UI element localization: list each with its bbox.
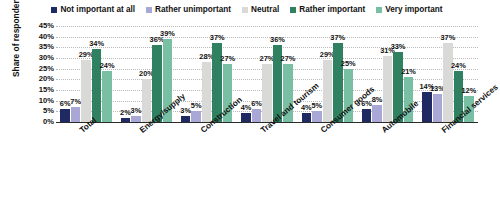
bar-value-label: 4%	[301, 104, 312, 112]
bar-slot: 6%	[252, 26, 262, 122]
y-axis-tick-label: 15%	[39, 86, 54, 94]
legend-item[interactable]: Rather important	[290, 5, 365, 15]
bar-value-label: 21%	[401, 68, 416, 76]
bar-value-label: 5%	[311, 102, 322, 110]
bar-slot: 4%	[241, 26, 251, 122]
bar[interactable]	[362, 109, 372, 122]
bar[interactable]	[422, 92, 432, 122]
bar-value-label: 27%	[220, 55, 235, 63]
y-axis-tick-label: 40%	[39, 33, 54, 41]
y-axis-tick-label: 5%	[43, 107, 54, 115]
bar[interactable]	[102, 71, 112, 122]
bar[interactable]	[433, 94, 443, 122]
y-axis-tick-label: 0%	[43, 118, 54, 126]
bar-value-label: 6%	[60, 100, 71, 108]
legend-swatch-icon	[376, 7, 382, 13]
bar-slot: 37%	[212, 26, 222, 122]
bar-slot: 8%	[372, 26, 382, 122]
bar[interactable]	[262, 64, 272, 122]
bar-slot: 4%	[302, 26, 312, 122]
y-axis-tick-label: 10%	[39, 97, 54, 105]
bar-slot: 7%	[71, 26, 81, 122]
bar-slot: 2%	[121, 26, 131, 122]
bar-slot: 14%	[422, 26, 432, 122]
bar-slot: 37%	[333, 26, 343, 122]
bar-value-label: 27%	[281, 55, 296, 63]
bar-slot: 24%	[102, 26, 112, 122]
bar-value-label: 3%	[180, 107, 191, 115]
legend-swatch-icon	[146, 7, 152, 13]
y-axis-tick-label: 30%	[39, 54, 54, 62]
bar[interactable]	[443, 43, 453, 122]
bar-value-label: 8%	[372, 96, 383, 104]
bar-slot: 36%	[273, 26, 283, 122]
bar-value-label: 2%	[120, 109, 131, 117]
legend-item[interactable]: Neutral	[242, 5, 279, 15]
y-axis-tick-label: 35%	[39, 43, 54, 51]
legend-item-label: Rather unimportant	[155, 5, 231, 15]
bar-value-label: 12%	[461, 87, 476, 95]
bar-value-label: 3%	[131, 107, 142, 115]
bar-value-label: 39%	[160, 30, 175, 38]
legend-item[interactable]: Not important at all	[51, 5, 135, 15]
bar-group: 6%7%29%34%24%	[56, 26, 116, 122]
bar[interactable]	[142, 79, 152, 122]
bar-slot: 6%	[60, 26, 70, 122]
bar[interactable]	[191, 111, 201, 122]
chart-legend: Not important at allRather unimportantNe…	[0, 5, 494, 15]
bar-slot: 5%	[191, 26, 201, 122]
y-axis-tick-labels: 45%40%35%30%25%20%15%10%5%0%	[22, 26, 54, 122]
bar[interactable]	[81, 60, 91, 122]
x-axis-category-labels: TotalEnergy/supplyConstructionTravel and…	[56, 122, 478, 196]
bar-slot: 31%	[383, 26, 393, 122]
bar-slot: 5%	[312, 26, 322, 122]
bar[interactable]	[60, 109, 70, 122]
bar-value-label: 4%	[241, 104, 252, 112]
legend-item-label: Not important at all	[60, 5, 135, 15]
legend-item[interactable]: Very important	[376, 5, 442, 15]
legend-item-label: Neutral	[251, 5, 279, 15]
bar-slot: 24%	[454, 26, 464, 122]
bar[interactable]	[312, 111, 322, 122]
bar[interactable]	[383, 56, 393, 122]
bar-slot: 37%	[443, 26, 453, 122]
bar-slot: 34%	[92, 26, 102, 122]
bar-value-label: 25%	[341, 60, 356, 68]
y-axis-tick-label: 20%	[39, 75, 54, 83]
legend-item-label: Very important	[385, 5, 442, 15]
legend-swatch-icon	[242, 7, 248, 13]
bar-value-label: 6%	[251, 100, 262, 108]
legend-item[interactable]: Rather unimportant	[146, 5, 231, 15]
legend-item-label: Rather important	[299, 5, 365, 15]
bar[interactable]	[241, 113, 251, 122]
legend-swatch-icon	[290, 7, 296, 13]
bar[interactable]	[323, 60, 333, 122]
bar[interactable]	[372, 105, 382, 122]
y-axis-tick-label: 25%	[39, 65, 54, 73]
bar-value-label: 5%	[191, 102, 202, 110]
bar-slot: 3%	[181, 26, 191, 122]
bar-slot: 6%	[362, 26, 372, 122]
bar[interactable]	[252, 109, 262, 122]
bar[interactable]	[302, 113, 312, 122]
y-axis-tick-label: 45%	[39, 22, 54, 30]
bar-value-label: 7%	[70, 98, 81, 106]
y-axis-title: Share of respondents	[10, 0, 22, 82]
legend-swatch-icon	[51, 7, 57, 13]
bar[interactable]	[71, 107, 81, 122]
bar-value-label: 24%	[100, 62, 115, 70]
bar[interactable]	[202, 62, 212, 122]
